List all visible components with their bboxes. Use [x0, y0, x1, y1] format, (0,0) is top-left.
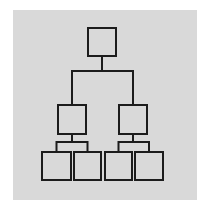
node-box-leaf-2: [74, 152, 101, 180]
node-box-leaf-3: [105, 152, 132, 180]
node-box-leaf-4: [135, 152, 163, 180]
org-chart-diagram: [0, 0, 208, 211]
tree-nodes: [42, 28, 163, 180]
connector-mid-left: [57, 134, 88, 152]
node-box-mid-left: [58, 105, 86, 134]
node-box-mid-right: [119, 105, 147, 134]
node-box-root: [88, 28, 116, 56]
node-box-leaf-1: [42, 152, 71, 180]
connector-mid-right: [119, 134, 150, 152]
connector-root: [72, 56, 133, 105]
